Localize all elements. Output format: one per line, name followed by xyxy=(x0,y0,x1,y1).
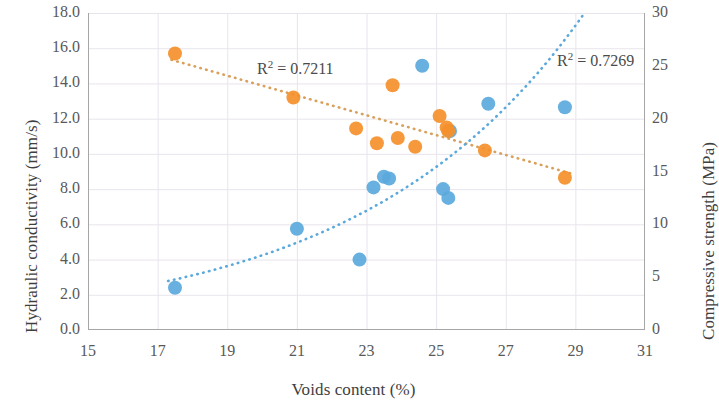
compressive-strength-points xyxy=(168,47,572,185)
hydraulic-conductivity-point xyxy=(558,100,572,114)
hydraulic-conductivity-point xyxy=(481,97,495,111)
hydraulic-conductivity-points xyxy=(168,59,572,295)
compressive-strength-point xyxy=(391,131,405,145)
trendline-compressive-strength xyxy=(172,60,572,174)
r2-label-hydraulic-conductivity: R2 = 0.7269 xyxy=(557,50,634,70)
compressive-strength-point xyxy=(168,47,182,61)
x-axis-tick-label: 19 xyxy=(207,342,247,360)
r2-label-compressive-strength: R2 = 0.7211 xyxy=(257,58,334,78)
compressive-strength-point xyxy=(386,78,400,92)
compressive-strength-point xyxy=(370,136,384,150)
x-axis-tick-label: 17 xyxy=(138,342,178,360)
x-axis-tick-label: 25 xyxy=(416,342,456,360)
compressive-strength-point xyxy=(478,143,492,157)
x-axis-tick-label: 27 xyxy=(486,342,526,360)
hydraulic-conductivity-point xyxy=(367,180,381,194)
hydraulic-conductivity-point xyxy=(415,59,429,73)
compressive-strength-point xyxy=(441,124,455,138)
compressive-strength-point xyxy=(349,121,363,135)
compressive-strength-point xyxy=(558,171,572,185)
hydraulic-conductivity-point xyxy=(353,253,367,267)
hydraulic-conductivity-point xyxy=(382,172,396,186)
hydraulic-conductivity-point xyxy=(441,191,455,205)
x-axis-tick-label: 29 xyxy=(555,342,595,360)
x-axis-tick-label: 31 xyxy=(625,342,665,360)
x-axis-tick-label: 15 xyxy=(68,342,108,360)
hydraulic-conductivity-point xyxy=(290,222,304,236)
hydraulic-conductivity-point xyxy=(168,281,182,295)
x-axis-tick-label: 21 xyxy=(277,342,317,360)
compressive-strength-point xyxy=(408,140,422,154)
compressive-strength-point xyxy=(286,91,300,105)
x-axis-tick-label: 23 xyxy=(347,342,387,360)
